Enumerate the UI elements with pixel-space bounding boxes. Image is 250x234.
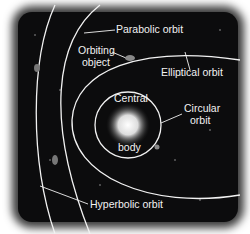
label-central-body-2: body [118,142,141,153]
label-central-body-1: Central [114,93,148,104]
orbiting-object [125,55,135,61]
label-orbiting-object-1: Orbiting [78,45,115,56]
label-elliptical-orbit: Elliptical orbit [161,67,223,78]
hyperbolic-orbit [36,5,55,234]
label-parabolic-orbit: Parabolic orbit [116,24,183,35]
orbit-diagram: Parabolic orbit Orbiting object Elliptic… [0,0,250,234]
label-circular-orbit-1: Circular [184,103,220,114]
label-orbiting-object-2: object [82,57,110,68]
label-circular-orbit-2: orbit [190,115,210,126]
label-hyperbolic-orbit: Hyperbolic orbit [90,199,163,210]
